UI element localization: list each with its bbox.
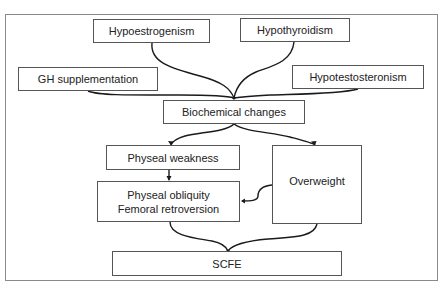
edge-biochemical-overweight	[234, 124, 315, 145]
node-physeal-obliquity-femoral-retroversion: Physeal obliquity Femoral retroversion	[97, 181, 240, 222]
node-label-line-1: Physeal obliquity	[127, 188, 210, 202]
node-label: Biochemical changes	[182, 105, 286, 119]
connector-lines	[0, 0, 445, 287]
node-label: Overweight	[289, 174, 345, 188]
node-hypoestrogenism: Hypoestrogenism	[93, 19, 210, 43]
node-label: Hypoestrogenism	[109, 24, 195, 38]
edge-obliquity-scfe	[170, 222, 228, 251]
node-biochemical-changes: Biochemical changes	[163, 100, 305, 124]
node-overweight: Overweight	[272, 145, 362, 224]
edge-overweight-scfe	[228, 224, 317, 251]
edge-biochemical-physeal-weakness	[171, 124, 234, 145]
node-hypotestosteronism: Hypotestosteronism	[292, 65, 424, 89]
edge-overweight-obliquity	[242, 185, 272, 201]
node-label: Hypothyroidism	[257, 23, 333, 37]
edge-gh-biochemical	[88, 91, 234, 98]
node-label: GH supplementation	[38, 72, 138, 86]
node-hypothyroidism: Hypothyroidism	[240, 18, 350, 42]
node-physeal-weakness: Physeal weakness	[106, 145, 240, 170]
node-gh-supplementation: GH supplementation	[18, 67, 158, 91]
node-label: SCFE	[212, 257, 241, 271]
node-label: Hypotestosteronism	[309, 70, 406, 84]
edge-hypotestosteronism-biochemical	[234, 89, 358, 98]
edge-hypothyroidism-biochemical	[234, 42, 294, 98]
edge-hypoestrogenism-biochemical	[152, 43, 234, 98]
node-label-line-2: Femoral retroversion	[118, 202, 219, 216]
node-scfe: SCFE	[112, 251, 342, 276]
node-label: Physeal weakness	[127, 151, 218, 165]
